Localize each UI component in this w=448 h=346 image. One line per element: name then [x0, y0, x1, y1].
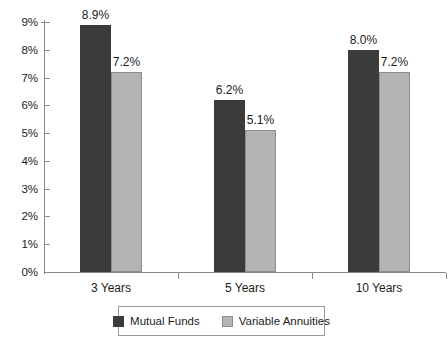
bar-variable-annuities [111, 72, 142, 272]
y-axis-tick-mark [45, 216, 50, 217]
y-axis-tick-label: 2% [0, 209, 38, 223]
y-axis-tick-mark [45, 50, 50, 51]
y-axis-tick-label: 9% [0, 15, 38, 29]
bar-variable-annuities [379, 72, 410, 272]
bar-value-label: 6.2% [206, 83, 254, 97]
bar-value-label: 5.1% [237, 113, 285, 127]
x-axis-tick-mark [312, 273, 313, 279]
x-axis-line [44, 272, 446, 273]
y-axis-tick-label: 5% [0, 126, 38, 140]
legend-item-mutual-funds: Mutual Funds [113, 315, 200, 328]
y-axis-tick-label: 4% [0, 154, 38, 168]
y-axis-tick-mark [45, 161, 50, 162]
x-axis-category-label: 3 Years [44, 281, 178, 296]
chart-legend: Mutual Funds Variable Annuities [118, 306, 325, 336]
y-axis-tick-mark [45, 189, 50, 190]
y-axis-tick-label: 1% [0, 237, 38, 251]
bar-variable-annuities [245, 130, 276, 272]
x-axis-tick-mark [446, 273, 447, 279]
legend-item-variable-annuities: Variable Annuities [222, 315, 330, 328]
y-axis-tick-mark [45, 272, 50, 273]
legend-label-mutual-funds: Mutual Funds [130, 315, 200, 328]
y-axis-line [44, 20, 45, 274]
y-axis-tick-label: 7% [0, 71, 38, 85]
y-axis-tick-label: 0% [0, 265, 38, 279]
bar-mutual-funds [348, 50, 379, 272]
x-axis-category-label: 5 Years [178, 281, 312, 296]
x-axis-tick-mark [178, 273, 179, 279]
y-axis-tick-mark [45, 78, 50, 79]
y-axis-tick-label: 8% [0, 43, 38, 57]
y-axis-tick-mark [41, 22, 50, 23]
bar-value-label: 7.2% [103, 55, 151, 69]
y-axis-tick-label: 6% [0, 98, 38, 112]
y-axis-tick-mark [45, 133, 50, 134]
bar-value-label: 8.0% [340, 33, 388, 47]
bar-value-label: 7.2% [371, 55, 419, 69]
y-axis-tick-label: 3% [0, 182, 38, 196]
legend-swatch-dark-icon [113, 316, 124, 327]
bar-value-label: 8.9% [72, 8, 120, 22]
x-axis-category-label: 10 Years [312, 281, 446, 296]
bar-chart: 9%8%7%6%5%4%3%2%1%0% 8.9%7.2%6.2%5.1%8.0… [0, 0, 448, 346]
legend-swatch-light-icon [222, 316, 233, 327]
y-axis-tick-mark [45, 105, 50, 106]
y-axis-tick-mark [45, 244, 50, 245]
legend-label-variable-annuities: Variable Annuities [239, 315, 330, 328]
